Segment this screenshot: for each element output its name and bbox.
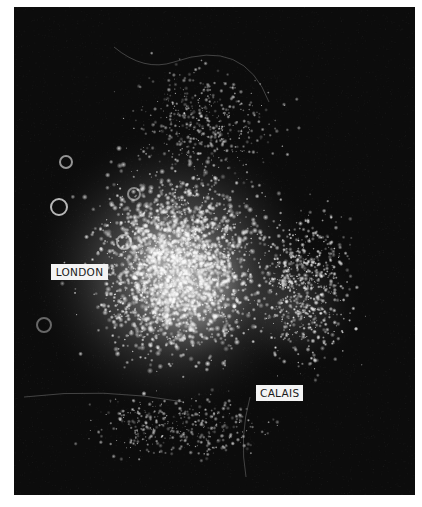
city-lights-image (14, 7, 415, 495)
map-label-calais: CALAIS (256, 385, 303, 401)
map-label-london: LONDON (51, 264, 108, 280)
night-satellite-photo: LONDON CALAIS (14, 7, 415, 495)
